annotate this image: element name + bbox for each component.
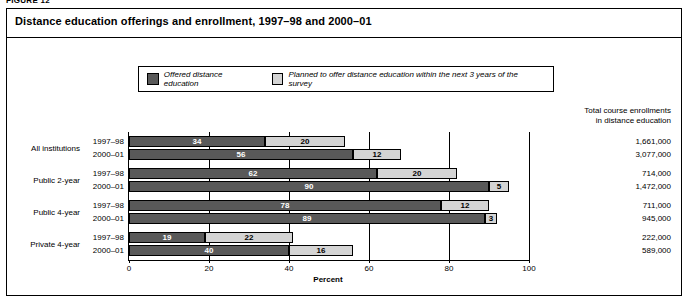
gridline — [529, 132, 530, 260]
chart-title: Distance education offerings and enrollm… — [15, 15, 372, 27]
legend-label-offered: Offered distance education — [164, 70, 258, 88]
total-enrollment-value: 1,661,000 — [531, 137, 671, 146]
total-enrollment-value: 3,077,000 — [531, 150, 671, 159]
row-year-label: 1997–98 — [82, 201, 124, 210]
x-tick-label: 20 — [194, 264, 224, 273]
total-enrollment-value: 1,472,000 — [531, 182, 671, 191]
total-enrollment-value: 589,000 — [531, 246, 671, 255]
group-label: Private 4-year — [11, 240, 80, 249]
totals-header-line2: in distance education — [531, 116, 671, 126]
total-enrollment-value: 714,000 — [531, 169, 671, 178]
legend-label-planned: Planned to offer distance education with… — [288, 70, 539, 88]
group-label: Public 4-year — [11, 208, 80, 217]
total-enrollment-value: 711,000 — [531, 201, 671, 210]
bar-value-planned: 20 — [297, 136, 313, 147]
bar-value-offered: 40 — [201, 245, 217, 256]
group-label: Public 2-year — [11, 176, 80, 185]
chart-legend: Offered distance education Planned to of… — [138, 66, 554, 92]
bar-value-offered: 89 — [299, 213, 315, 224]
x-tick-label: 80 — [434, 264, 464, 273]
bar-value-planned: 22 — [241, 232, 257, 243]
bar-value-planned: 12 — [457, 200, 473, 211]
x-tick-label: 100 — [514, 264, 544, 273]
row-year-label: 1997–98 — [82, 137, 124, 146]
total-enrollment-value: 945,000 — [531, 214, 671, 223]
legend-swatch-offered — [147, 73, 159, 85]
bar-value-offered: 90 — [301, 181, 317, 192]
legend-item-offered: Offered distance education — [147, 70, 258, 88]
bar-value-offered: 78 — [277, 200, 293, 211]
x-tick — [209, 260, 210, 263]
legend-item-planned: Planned to offer distance education with… — [272, 70, 539, 88]
row-year-label: 2000–01 — [82, 246, 124, 255]
x-axis-title: Percent — [128, 275, 528, 284]
row-year-label: 2000–01 — [82, 182, 124, 191]
bar-value-planned: 20 — [409, 168, 425, 179]
bar-value-offered: 19 — [159, 232, 175, 243]
row-year-label: 2000–01 — [82, 214, 124, 223]
row-year-label: 1997–98 — [82, 233, 124, 242]
title-divider — [7, 37, 681, 38]
x-tick-label: 60 — [354, 264, 384, 273]
x-tick — [129, 260, 130, 263]
figure-label: FIGURE 12 — [6, 0, 50, 5]
bar-value-planned: 3 — [483, 213, 499, 224]
x-tick-label: 40 — [274, 264, 304, 273]
row-year-label: 1997–98 — [82, 169, 124, 178]
row-year-label: 2000–01 — [82, 150, 124, 159]
legend-swatch-planned — [272, 73, 284, 85]
chart-panel: Distance education offerings and enrollm… — [6, 8, 682, 296]
totals-header-line1: Total course enrollments — [531, 106, 671, 116]
bar-value-planned: 5 — [491, 181, 507, 192]
group-label: All institutions — [11, 144, 80, 153]
total-enrollment-value: 222,000 — [531, 233, 671, 242]
x-tick — [529, 260, 530, 263]
gridline — [449, 132, 450, 260]
x-tick-label: 0 — [114, 264, 144, 273]
x-tick — [289, 260, 290, 263]
plot-area: 0204060801003420561262209057812893192240… — [128, 132, 529, 261]
bar-value-offered: 34 — [189, 136, 205, 147]
bar-value-offered: 56 — [233, 149, 249, 160]
x-tick — [449, 260, 450, 263]
totals-column-header: Total course enrollments in distance edu… — [531, 106, 671, 126]
x-tick — [369, 260, 370, 263]
bar-value-planned: 16 — [313, 245, 329, 256]
bar-value-planned: 12 — [369, 149, 385, 160]
bar-value-offered: 62 — [245, 168, 261, 179]
